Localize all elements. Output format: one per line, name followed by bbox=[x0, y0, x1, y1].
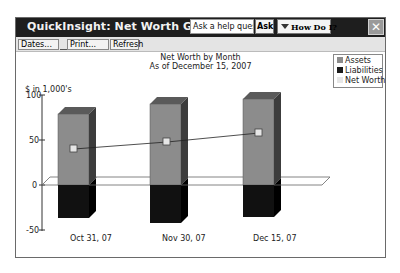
bar-group-oct bbox=[58, 107, 96, 218]
chart-plot bbox=[16, 18, 385, 257]
x-label-oct: Oct 31, 07 bbox=[70, 234, 112, 243]
bar-group-nov bbox=[150, 97, 188, 223]
x-label-dec: Dec 15, 07 bbox=[253, 234, 296, 243]
net-worth-marker-nov bbox=[163, 138, 170, 145]
bar-group-dec bbox=[243, 92, 281, 217]
quickinsight-window: QuickInsight: Net Worth Graph Ask a help… bbox=[15, 17, 386, 258]
net-worth-marker-oct bbox=[70, 145, 77, 152]
x-label-nov: Nov 30, 07 bbox=[162, 234, 206, 243]
net-worth-marker-dec bbox=[255, 129, 262, 136]
